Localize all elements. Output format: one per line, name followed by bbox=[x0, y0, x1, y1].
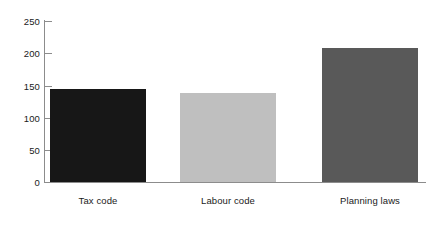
y-tick-label-50: 50 bbox=[6, 146, 40, 156]
category-label-tax-code: Tax code bbox=[50, 196, 146, 206]
y-tick-0 bbox=[45, 182, 52, 183]
plot-area bbox=[45, 21, 425, 182]
y-tick-label-0: 0 bbox=[6, 178, 40, 188]
y-tick-label-250: 250 bbox=[6, 17, 40, 27]
bar-labour-code bbox=[180, 93, 276, 182]
bar-planning-laws bbox=[322, 48, 418, 182]
category-label-labour-code: Labour code bbox=[180, 196, 276, 206]
y-tick-label-150: 150 bbox=[6, 82, 40, 92]
x-axis-line bbox=[44, 182, 426, 183]
category-label-planning-laws: Planning laws bbox=[322, 196, 418, 206]
bar-tax-code bbox=[50, 89, 146, 182]
y-tick-label-200: 200 bbox=[6, 49, 40, 59]
y-tick-label-100: 100 bbox=[6, 114, 40, 124]
bar-chart: 0 50 100 150 200 250 Tax code Labour cod… bbox=[0, 0, 436, 225]
